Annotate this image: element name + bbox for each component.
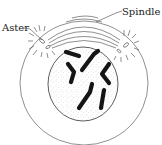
label-spindle: Spindle: [122, 6, 160, 17]
cell-diagram: Aster Spindle: [0, 0, 162, 145]
leader-line-spindle: [96, 11, 122, 22]
chromosome-6: [101, 90, 104, 108]
label-aster: Aster: [1, 22, 29, 33]
